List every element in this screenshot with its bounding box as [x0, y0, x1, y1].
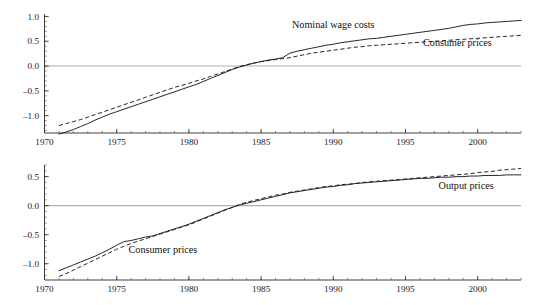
series-annotation-label: Consumer prices — [129, 244, 198, 255]
y-axis-tick-label: –1.0 — [22, 111, 39, 121]
x-axis-tick-label: 1990 — [324, 284, 343, 294]
y-axis-tick-label: 0.5 — [28, 172, 40, 182]
series-annotation-label: Nominal wage costs — [292, 19, 375, 30]
series-line-consumer-prices — [59, 35, 521, 125]
x-axis-tick-label: 1970 — [35, 284, 54, 294]
x-axis-tick-label: 2000 — [468, 137, 487, 147]
x-axis-tick-label: 1975 — [108, 137, 127, 147]
y-axis-tick-label: 1.0 — [28, 12, 40, 22]
series-annotation-label: Output prices — [439, 180, 494, 191]
top-chart-svg: 1.00.50.0–0.5–1.019701975198019851990199… — [0, 0, 533, 152]
x-axis-tick-label: 1985 — [252, 284, 271, 294]
y-axis-tick-label: 0.0 — [28, 61, 40, 71]
x-axis-tick-label: 1985 — [252, 137, 271, 147]
x-axis-tick-label: 2000 — [468, 284, 487, 294]
y-axis-tick-label: –0.5 — [22, 230, 39, 240]
x-axis-tick-label: 1980 — [180, 137, 199, 147]
x-axis-tick-label: 1995 — [396, 137, 415, 147]
x-axis-tick-label: 1995 — [396, 284, 415, 294]
y-axis-tick-label: 0.5 — [28, 36, 40, 46]
x-axis-tick-label: 1970 — [35, 137, 54, 147]
bottom-chart-svg: 0.50.0–0.5–1.019701975198019851990199520… — [0, 152, 533, 305]
y-axis-tick-label: –1.0 — [22, 259, 39, 269]
x-axis-tick-label: 1975 — [108, 284, 127, 294]
chart-panel-bottom: 0.50.0–0.5–1.019701975198019851990199520… — [0, 152, 533, 305]
y-axis-tick-label: 0.0 — [28, 201, 40, 211]
economics-line-chart-figure: 1.00.50.0–0.5–1.019701975198019851990199… — [0, 0, 533, 305]
x-axis-tick-label: 1980 — [180, 284, 199, 294]
chart-panel-top: 1.00.50.0–0.5–1.019701975198019851990199… — [0, 0, 533, 152]
x-axis-tick-label: 1990 — [324, 137, 343, 147]
series-annotation-label: Consumer prices — [423, 37, 492, 48]
y-axis-tick-label: –0.5 — [22, 86, 39, 96]
